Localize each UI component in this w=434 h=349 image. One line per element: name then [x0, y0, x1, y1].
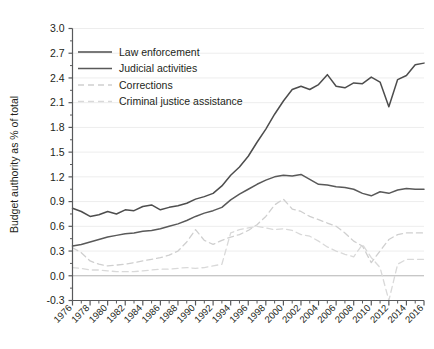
y-tick-label: 0.3 — [50, 245, 65, 257]
y-tick-label: 1.8 — [50, 121, 65, 133]
legend-label: Judicial activities — [119, 62, 197, 74]
y-axis-title: Budget authority as % of total — [8, 96, 20, 233]
y-tick-label: 2.4 — [50, 72, 65, 84]
y-axis-title-text: Budget authority as % of total — [8, 96, 20, 233]
y-tick-label: 1.5 — [50, 146, 65, 158]
y-tick-label: 0.6 — [50, 220, 65, 232]
y-tick-label: 2.7 — [50, 47, 65, 59]
y-tick-label: 1.2 — [50, 171, 65, 183]
chart-container: 3.02.72.42.11.81.51.20.90.60.30.0-0.3 19… — [0, 0, 434, 349]
y-tick-label: 0.9 — [50, 195, 65, 207]
y-tick-label: -0.3 — [46, 294, 64, 306]
y-tick-label: 2.1 — [50, 96, 65, 108]
chart-background — [0, 0, 434, 349]
y-tick-label: 0.0 — [50, 270, 65, 282]
legend-label: Criminal justice assistance — [119, 95, 243, 107]
y-tick-label: 3.0 — [50, 22, 65, 34]
legend-label: Corrections — [119, 79, 173, 91]
legend-label: Law enforcement — [119, 46, 200, 58]
line-chart: 3.02.72.42.11.81.51.20.90.60.30.0-0.3 19… — [0, 0, 434, 349]
